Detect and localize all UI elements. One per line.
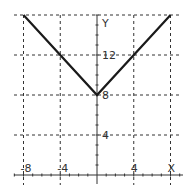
y-tick-label: 4 [102, 129, 109, 142]
x-tick-label: -4 [57, 162, 68, 175]
y-tick-label: 8 [102, 89, 109, 102]
x-tick-label: 4 [131, 162, 138, 175]
x-tick-label: X [168, 162, 176, 175]
y-tick-label: Y [101, 17, 109, 30]
y-tick-label: 12 [102, 49, 116, 62]
tick-labels: -8-44X4812Y [21, 17, 176, 175]
grid-lines [14, 15, 182, 185]
axes [14, 15, 183, 184]
x-tick-label: -8 [21, 162, 32, 175]
chart: -8-44X4812Y [0, 0, 190, 192]
